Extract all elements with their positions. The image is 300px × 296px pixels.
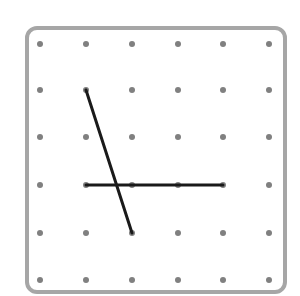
- peg-dot: [129, 87, 135, 93]
- peg-dot: [37, 87, 43, 93]
- peg-dot: [83, 134, 89, 140]
- geoboard: [0, 0, 300, 296]
- peg-dot: [266, 277, 272, 283]
- peg-dot: [220, 87, 226, 93]
- peg-dot: [220, 41, 226, 47]
- peg-dot: [37, 41, 43, 47]
- peg-dot: [175, 41, 181, 47]
- peg-dot: [37, 134, 43, 140]
- peg-dot: [220, 277, 226, 283]
- peg-dot: [129, 134, 135, 140]
- peg-dot: [83, 277, 89, 283]
- peg-dot: [37, 182, 43, 188]
- peg-dot: [266, 230, 272, 236]
- geoboard-border: [27, 28, 285, 292]
- peg-dot: [266, 134, 272, 140]
- peg-dot: [83, 41, 89, 47]
- peg-dot: [129, 277, 135, 283]
- peg-dot: [175, 277, 181, 283]
- peg-dot: [175, 134, 181, 140]
- peg-dot: [266, 41, 272, 47]
- peg-dot: [129, 41, 135, 47]
- peg-dot: [175, 230, 181, 236]
- peg-dot: [37, 277, 43, 283]
- peg-dot: [37, 230, 43, 236]
- peg-dot: [266, 182, 272, 188]
- peg-dot: [220, 134, 226, 140]
- peg-dot: [175, 87, 181, 93]
- peg-dot: [220, 230, 226, 236]
- peg-dot: [83, 230, 89, 236]
- peg-dot: [266, 87, 272, 93]
